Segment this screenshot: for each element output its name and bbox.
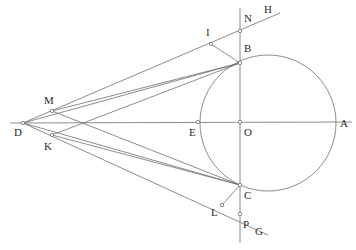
main-circle <box>200 55 336 191</box>
point-label-k: K <box>44 141 52 152</box>
point-label-m: M <box>44 95 54 106</box>
point-marker-e <box>196 120 199 123</box>
point-label-n: N <box>244 13 252 24</box>
point-label-c: C <box>244 190 251 201</box>
point-label-l: L <box>211 207 218 218</box>
diagram-canvas <box>0 0 356 250</box>
point-label-o: O <box>244 127 252 138</box>
point-marker-i <box>209 42 212 45</box>
point-label-i: I <box>206 27 210 38</box>
point-label-d: D <box>14 127 22 138</box>
point-marker-m <box>50 109 53 112</box>
line-I-B-short <box>211 44 240 63</box>
circle-group <box>200 55 336 191</box>
point-label-b: B <box>244 43 251 54</box>
line-L-C-short <box>222 185 240 205</box>
point-label-p: P <box>243 219 249 230</box>
line-D-A-horizontal <box>10 122 352 123</box>
segments-group <box>10 8 352 243</box>
line-K-M-left-cross-2 <box>52 63 240 135</box>
point-marker-b <box>238 61 241 64</box>
point-marker-p <box>238 212 241 215</box>
line-D-L-G-lower-secant <box>23 123 268 235</box>
point-marker-k <box>50 133 53 136</box>
point-marker-d <box>21 121 24 124</box>
point-marker-o <box>238 120 241 123</box>
point-marker-l <box>220 203 223 206</box>
point-marker-n <box>238 29 241 32</box>
point-label-h: H <box>264 4 272 15</box>
line-K-C-chordal <box>52 135 240 185</box>
line-D-B-tangent-upper <box>23 63 240 123</box>
geometry-figure: ABCDEGHIKLMNOP <box>0 0 356 250</box>
point-label-e: E <box>189 127 196 138</box>
point-label-a: A <box>340 118 348 129</box>
point-marker-c <box>238 183 241 186</box>
point-label-g: G <box>255 226 263 237</box>
